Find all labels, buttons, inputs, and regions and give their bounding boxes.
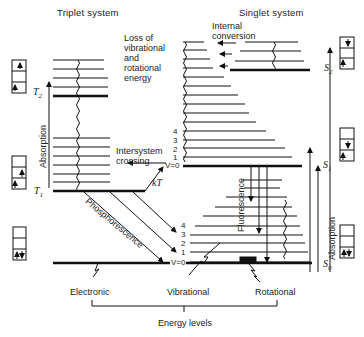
vibrational-label: Vibrational bbox=[167, 287, 209, 297]
isc-label: Intersystem crossing bbox=[116, 146, 163, 166]
s1-relaxation-wave bbox=[184, 42, 187, 162]
internal-line-1: Internal bbox=[212, 21, 256, 31]
electronic-label: Electronic bbox=[70, 287, 110, 297]
energy-levels-label: Energy levels bbox=[158, 318, 212, 328]
loss-line-1: Loss of bbox=[124, 33, 165, 43]
spin-box-s0-left bbox=[13, 227, 26, 260]
spin-box-t1 bbox=[12, 156, 26, 189]
loss-line-5: energy bbox=[124, 73, 165, 83]
triplet-system-title: Triplet system bbox=[57, 8, 119, 18]
s2-subscript: 2 bbox=[329, 68, 333, 76]
t1-subscript: 1 bbox=[40, 191, 44, 199]
loss-line-2: vibrational bbox=[124, 43, 165, 53]
fluorescence-label: Fluorescence bbox=[236, 178, 246, 232]
t2-levels bbox=[53, 60, 108, 96]
internal-line-2: conversion bbox=[212, 31, 256, 41]
t1-label: T1 bbox=[34, 186, 43, 200]
singlet-system-title: Singlet system bbox=[239, 8, 304, 18]
rotational-pointer bbox=[248, 263, 260, 282]
s1-v0: V=0 bbox=[165, 161, 179, 171]
loss-energy-label: Loss of vibrational and rotational energ… bbox=[124, 33, 165, 83]
s0-relaxation-wave bbox=[284, 200, 287, 259]
phosphorescence-arrow-3 bbox=[133, 192, 176, 232]
vibrational-pointer bbox=[189, 243, 220, 275]
internal-conversion-label: Internal conversion bbox=[212, 21, 256, 41]
spin-box-s1 bbox=[340, 128, 354, 161]
triplet-relaxation-wave bbox=[77, 60, 80, 191]
s1-label: S1 bbox=[323, 160, 332, 174]
singlet-absorption-label: Absorption bbox=[327, 217, 337, 260]
electronic-pointer bbox=[93, 263, 99, 277]
spin-box-s0-right bbox=[340, 225, 354, 258]
s0-v1: 1 bbox=[181, 248, 185, 258]
spin-box-s2 bbox=[340, 37, 354, 69]
s0-v0: V=0 bbox=[170, 258, 186, 268]
isc-line-2: crossing bbox=[116, 156, 163, 166]
energy-levels-bracket bbox=[92, 300, 277, 306]
s2-relaxation-wave bbox=[273, 42, 276, 70]
t2-subscript: 2 bbox=[39, 92, 43, 100]
spin-box-t2 bbox=[12, 60, 26, 93]
rotational-label: Rotational bbox=[255, 287, 296, 297]
t2-label: T2 bbox=[33, 87, 42, 101]
kt-label: kT bbox=[152, 178, 162, 188]
loss-line-3: and bbox=[124, 53, 165, 63]
s1-subscript: 1 bbox=[328, 165, 332, 173]
s0-label: S0 bbox=[323, 259, 332, 273]
triplet-absorption-label: Absorption bbox=[38, 125, 48, 168]
s0-subscript: 0 bbox=[328, 264, 332, 272]
s2-levels bbox=[230, 42, 310, 70]
isc-line-1: Intersystem bbox=[116, 146, 163, 156]
s2-label: S2 bbox=[324, 63, 333, 77]
loss-line-4: rotational bbox=[124, 63, 165, 73]
rotational-block bbox=[240, 257, 256, 263]
